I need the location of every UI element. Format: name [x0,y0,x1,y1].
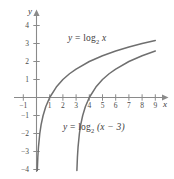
x-tick-label-5: 5 [101,101,105,110]
curve1-arg: x [102,33,106,43]
x-tick-label-6: 6 [114,101,118,110]
x-axis-name: x [162,99,167,109]
x-tick-label-9: 9 [153,101,157,110]
curve2-base: 2 [91,127,94,134]
x-tick-label--1: −1 [19,101,27,110]
y-tick-label-2: 2 [25,57,29,66]
y-tick-label-3: 3 [25,39,29,48]
y-axis-name: y [27,6,32,16]
curve2-equals: = [70,122,76,132]
curve-label-log2-x: y = log2 x [68,33,106,45]
y-tick-label--3: −3 [21,147,29,156]
curve1-fn: log [83,33,96,43]
curve2-arg: (x − 3) [97,122,125,132]
x-tick-label-2: 2 [61,101,65,110]
x-tick-label-4: 4 [87,101,91,110]
y-tick-label--2: −2 [21,129,29,138]
curve1-equals: = [75,33,81,43]
curve2-lhs: y [63,122,67,132]
y-tick-label--1: −1 [21,111,29,120]
x-tick-label-1: 1 [48,101,52,110]
curve2-fn: log [78,122,91,132]
curve-log2-x [37,40,155,170]
plot-canvas: −1 1 2 3 4 5 6 7 8 9 4 3 2 1 −1 −2 −3 −4… [0,0,174,179]
y-tick-label-1: 1 [25,75,29,84]
x-tick-label-7: 7 [127,101,131,110]
x-tick-label-3: 3 [74,101,78,110]
x-tick-label-8: 8 [140,101,144,110]
y-tick-label-4: 4 [25,21,29,30]
curve-label-log2-x-minus-3: y = log2 (x − 3) [63,122,125,134]
curve-log2-x-minus-3 [77,51,155,171]
curve1-base: 2 [96,38,99,45]
y-tick-label--4: −4 [21,165,29,174]
logarithm-graph-figure: −1 1 2 3 4 5 6 7 8 9 4 3 2 1 −1 −2 −3 −4… [0,0,174,179]
y-axis-arrowhead [33,10,39,17]
curve1-lhs: y [68,33,72,43]
